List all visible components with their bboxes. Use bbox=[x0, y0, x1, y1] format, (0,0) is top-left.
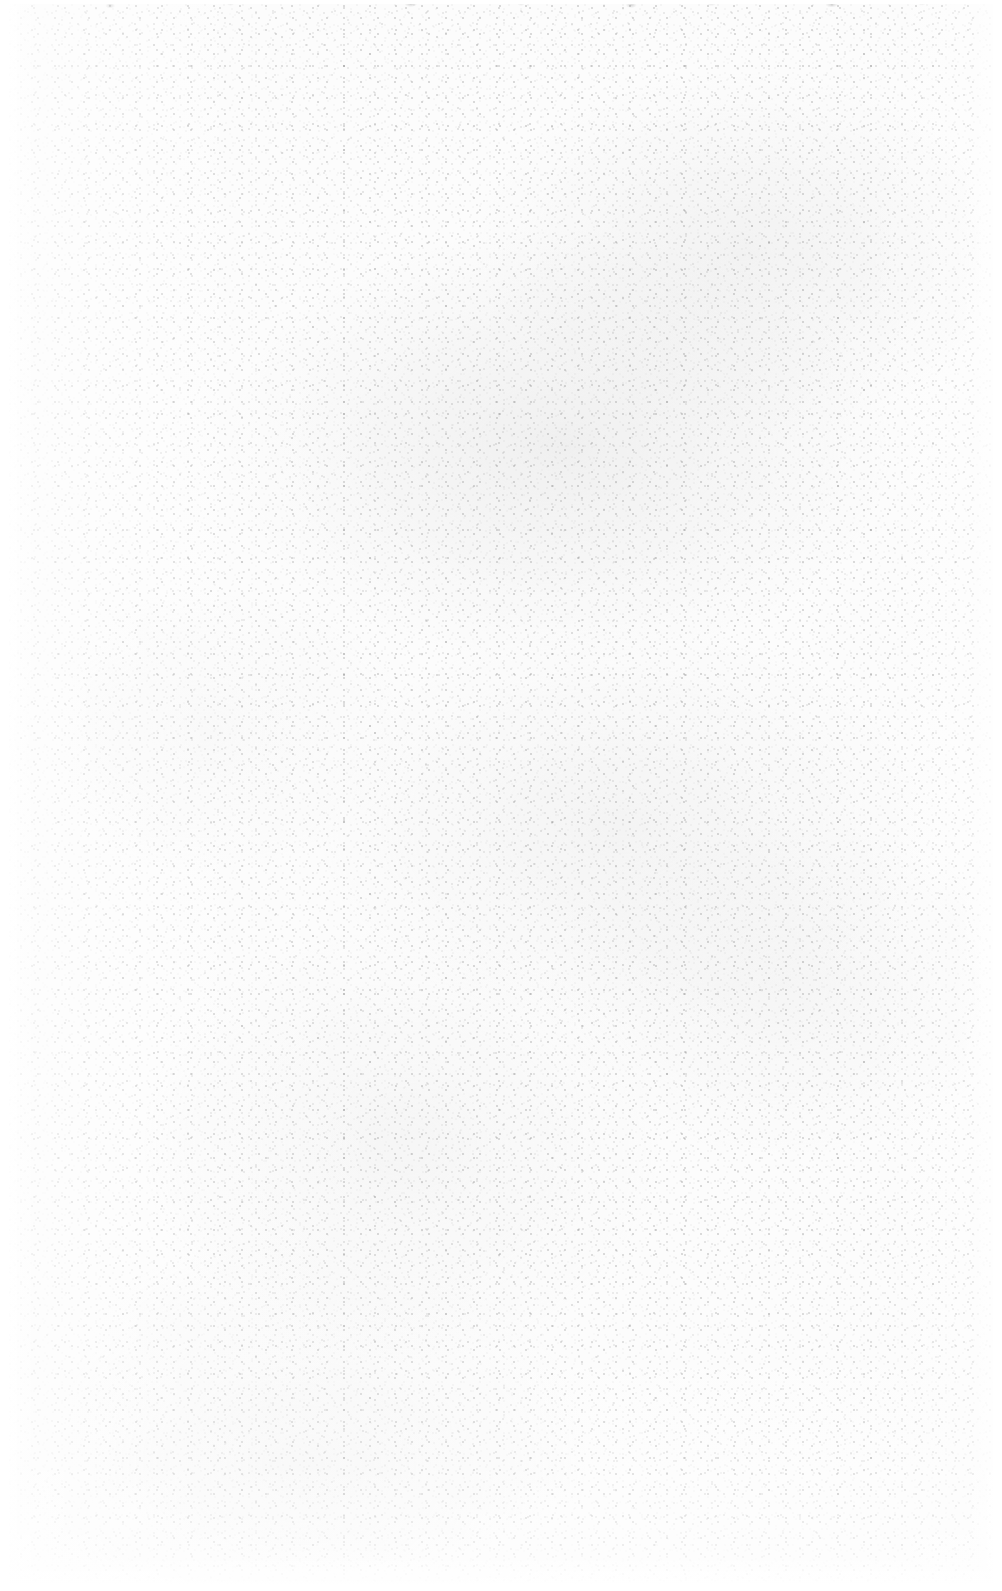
paper-tone-lift bbox=[0, 0, 1002, 1591]
right-bleed-margin bbox=[993, 0, 1002, 1591]
top-bleed-margin bbox=[0, 0, 1002, 4]
bottom-bleed-margin bbox=[0, 1584, 1002, 1591]
scanned-page bbox=[0, 0, 1002, 1591]
left-bleed-margin bbox=[0, 0, 9, 1591]
